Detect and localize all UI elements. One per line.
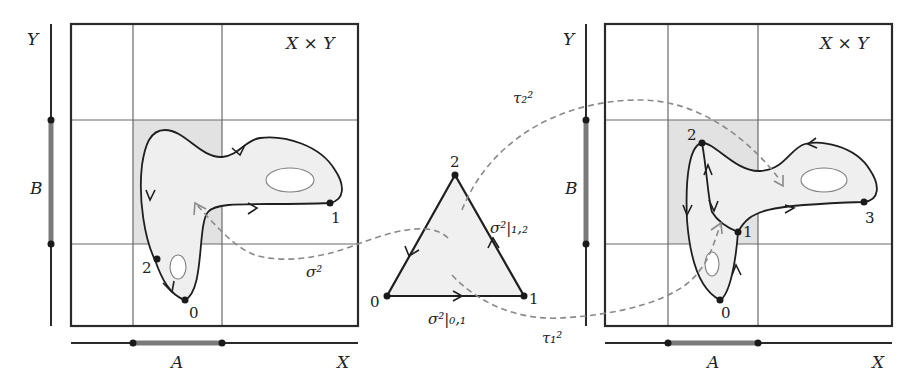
left-y-axis-label: Y bbox=[27, 29, 40, 49]
sigma-map-path bbox=[197, 205, 448, 259]
left-b-endpoint bbox=[48, 117, 55, 124]
tau2-label: τ₂² bbox=[513, 89, 533, 107]
edge-label-12: σ²|₁,₂ bbox=[490, 219, 528, 237]
homotopy-diagram: 0 1 2 X × Y Y B A X 0 1 2 σ²|₀,₁ σ²|₁,₂ bbox=[0, 0, 919, 387]
left-vertex-2 bbox=[154, 256, 161, 263]
left-product-label: X × Y bbox=[284, 33, 336, 53]
tau1-label: τ₁² bbox=[542, 329, 562, 347]
left-vertex-label-2: 2 bbox=[142, 259, 152, 277]
left-a-endpoint bbox=[219, 340, 226, 347]
left-a-endpoint bbox=[130, 340, 137, 347]
simplex-vertex-2 bbox=[452, 172, 459, 179]
right-x-axis-label: X bbox=[870, 352, 885, 372]
right-a-endpoint bbox=[665, 340, 672, 347]
simplex: 0 1 2 σ²|₀,₁ σ²|₁,₂ bbox=[370, 153, 539, 328]
right-y-axis-label: Y bbox=[563, 29, 576, 49]
right-b-endpoint bbox=[583, 117, 590, 124]
simplex-vertex-label-0: 0 bbox=[370, 293, 380, 311]
right-panel: 0 1 2 3 X × Y Y B A X bbox=[563, 24, 892, 372]
right-loop-region bbox=[687, 143, 877, 300]
simplex-vertex-label-1: 1 bbox=[529, 290, 539, 308]
left-b-label: B bbox=[29, 178, 43, 198]
right-vertex-label-0: 0 bbox=[721, 304, 731, 322]
right-a-endpoint bbox=[755, 340, 762, 347]
left-x-axis-label: X bbox=[335, 352, 350, 372]
left-vertex-label-1: 1 bbox=[331, 209, 341, 227]
left-vertex-label-0: 0 bbox=[189, 304, 199, 322]
right-hole-large bbox=[801, 168, 847, 192]
simplex-vertex-0 bbox=[384, 293, 391, 300]
right-vertex-2 bbox=[699, 140, 706, 147]
left-vertex-1 bbox=[327, 200, 334, 207]
right-b-label: B bbox=[564, 178, 578, 198]
edge-label-01: σ²|₀,₁ bbox=[428, 310, 466, 328]
right-vertex-label-3: 3 bbox=[865, 209, 875, 227]
left-hole-large bbox=[266, 168, 314, 192]
right-vertex-1 bbox=[735, 229, 742, 236]
right-b-endpoint bbox=[583, 241, 590, 248]
left-panel: 0 1 2 X × Y Y B A X bbox=[27, 24, 358, 372]
right-vertex-3 bbox=[861, 199, 868, 206]
left-b-endpoint bbox=[48, 241, 55, 248]
right-product-label: X × Y bbox=[818, 33, 870, 53]
left-a-label: A bbox=[169, 352, 183, 372]
right-a-label: A bbox=[705, 352, 719, 372]
right-vertex-label-2: 2 bbox=[687, 126, 697, 144]
left-hole-small bbox=[170, 255, 186, 279]
simplex-vertex-1 bbox=[521, 293, 528, 300]
simplex-vertex-label-2: 2 bbox=[450, 153, 460, 171]
right-hole-small bbox=[705, 252, 719, 276]
sigma-label: σ² bbox=[306, 263, 322, 281]
right-vertex-0 bbox=[717, 297, 724, 304]
left-vertex-0 bbox=[182, 297, 189, 304]
right-vertex-label-1: 1 bbox=[743, 223, 753, 241]
